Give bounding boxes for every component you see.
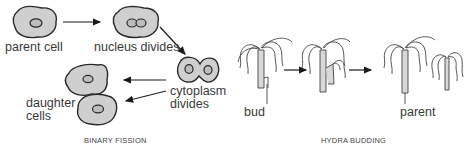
- cytoplasm-divides-cell: [178, 57, 219, 82]
- label-daughter-cells-2: cells: [26, 110, 51, 123]
- hydra-detached-bud: [432, 53, 463, 90]
- daughter-cell-bottom: [78, 94, 117, 124]
- label-parent: parent: [400, 106, 435, 119]
- label-parent-cell: parent cell: [5, 41, 63, 54]
- diagram-canvas: [0, 0, 470, 147]
- label-cytoplasm-divides-2: divides: [170, 98, 209, 111]
- daughter-cell-top: [65, 64, 107, 95]
- nucleus-divides-cell: [113, 7, 158, 38]
- caption-hydra-budding: HYDRA BUDDING: [321, 136, 386, 145]
- parent-cell: [13, 7, 56, 38]
- arrow-4: [126, 91, 166, 101]
- label-nucleus-divides: nucleus divides: [94, 41, 179, 54]
- caption-binary-fission: BINARY FISSION: [84, 136, 147, 145]
- label-bud: bud: [244, 106, 265, 119]
- hydra-parent: [384, 37, 435, 93]
- hydra-2: [302, 39, 350, 92]
- hydra-1: [238, 38, 292, 88]
